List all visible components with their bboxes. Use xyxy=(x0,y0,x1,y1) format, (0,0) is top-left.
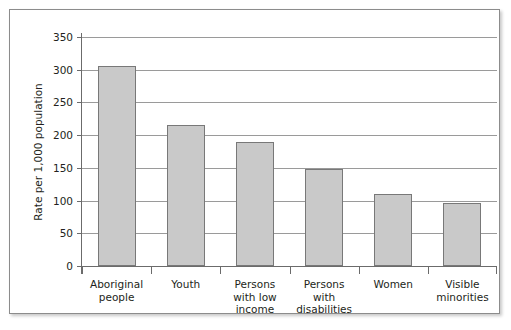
x-axis-category-label-line: disabilities xyxy=(290,303,359,316)
bar xyxy=(443,203,481,266)
x-axis-category-label: Personswithdisabilities xyxy=(290,278,359,316)
y-tick-label-150: 150 xyxy=(53,163,73,174)
x-axis-category-label: Women xyxy=(359,278,428,291)
x-axis-category-label-line: Persons xyxy=(220,278,289,291)
y-tick-label-100: 100 xyxy=(53,195,73,206)
gridline-200: 200 xyxy=(82,135,497,136)
y-tick-mark-300 xyxy=(77,70,82,71)
y-tick-label-0: 0 xyxy=(66,261,73,272)
y-tick-label-350: 350 xyxy=(53,32,73,43)
x-tick-mark xyxy=(290,266,291,274)
x-axis-category-label: Personswith lowincome xyxy=(220,278,289,316)
x-tick-mark xyxy=(220,266,221,274)
bar xyxy=(305,169,343,266)
x-tick-mark xyxy=(82,266,83,274)
y-tick-mark-200 xyxy=(77,135,82,136)
x-axis-category-label-line: minorities xyxy=(428,291,497,304)
bar xyxy=(167,125,205,266)
gridline-150: 150 xyxy=(82,168,497,169)
x-axis-category-label-line: Women xyxy=(359,278,428,291)
x-axis-category-label: Youth xyxy=(151,278,220,291)
x-axis-category-label-line: Visible xyxy=(428,278,497,291)
x-axis-category-label: Visibleminorities xyxy=(428,278,497,303)
chart-figure: Rate per 1,000 population 05010015020025… xyxy=(0,0,511,330)
x-axis-ticks xyxy=(82,266,497,275)
x-axis-category-label: Aboriginalpeople xyxy=(82,278,151,303)
bar xyxy=(236,142,274,266)
x-axis-category-label-line: Youth xyxy=(151,278,220,291)
x-axis-category-label-line: with low xyxy=(220,291,289,304)
gridline-350: 350 xyxy=(82,37,497,38)
gridline-300: 300 xyxy=(82,70,497,71)
y-tick-mark-150 xyxy=(77,168,82,169)
gridline-100: 100 xyxy=(82,201,497,202)
chart-frame: Rate per 1,000 population 05010015020025… xyxy=(9,9,500,314)
x-axis-labels: AboriginalpeopleYouthPersonswith lowinco… xyxy=(82,278,497,323)
x-axis-category-label-line: income xyxy=(220,303,289,316)
gridline-250: 250 xyxy=(82,102,497,103)
y-tick-mark-100 xyxy=(77,201,82,202)
bar xyxy=(374,194,412,266)
x-axis-category-label-line: with xyxy=(290,291,359,304)
x-tick-mark xyxy=(428,266,429,274)
y-tick-mark-250 xyxy=(77,102,82,103)
y-tick-label-200: 200 xyxy=(53,130,73,141)
x-tick-mark xyxy=(359,266,360,274)
x-axis-category-label-line: Persons xyxy=(290,278,359,291)
y-axis-title: Rate per 1,000 population xyxy=(33,83,44,220)
x-tick-mark xyxy=(496,266,497,274)
y-tick-label-50: 50 xyxy=(60,228,73,239)
y-axis-title-container: Rate per 1,000 population xyxy=(28,37,48,266)
y-tick-label-300: 300 xyxy=(53,64,73,75)
x-axis-category-label-line: Aboriginal xyxy=(82,278,151,291)
bar xyxy=(98,66,136,266)
y-tick-mark-350 xyxy=(77,37,82,38)
y-tick-mark-50 xyxy=(77,233,82,234)
plot-area: 050100150200250300350 xyxy=(82,37,497,266)
x-tick-mark xyxy=(151,266,152,274)
x-axis-category-label-line: people xyxy=(82,291,151,304)
gridline-50: 50 xyxy=(82,233,497,234)
y-tick-label-250: 250 xyxy=(53,97,73,108)
